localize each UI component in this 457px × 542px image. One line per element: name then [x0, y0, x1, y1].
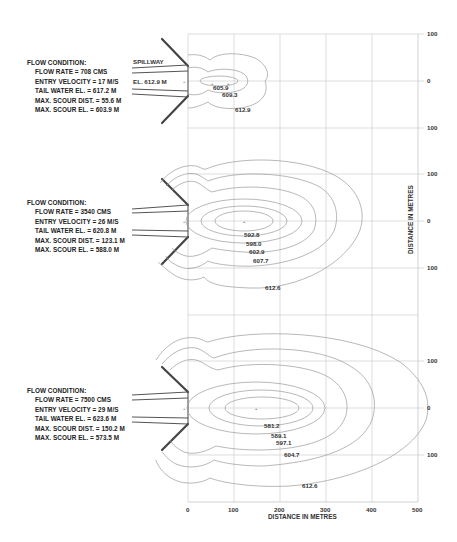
panel-1-contours: + + 605.9 609.3 612.9 SPILLWAY EL. 612.9…	[133, 54, 268, 113]
x-tick: 500	[412, 506, 423, 513]
contour-label: 602.9	[249, 248, 265, 255]
panel-3-spillway: +	[132, 367, 188, 450]
contour-label: 612.6	[265, 284, 281, 291]
scour-contour-figure: FLOW CONDITION: FLOW RATE = 708 CMS ENTR…	[0, 0, 457, 542]
x-tick: 400	[366, 506, 377, 513]
contour-label: 592.8	[244, 231, 260, 238]
x-axis-title: DISTANCE IN METRES	[268, 513, 337, 520]
svg-text:+: +	[243, 219, 246, 224]
x-axis: 0 100 200 300 400 500 DISTANCE IN METRES	[186, 506, 423, 520]
x-tick: 0	[186, 506, 190, 513]
svg-text:0: 0	[427, 404, 431, 411]
x-tick: 100	[228, 506, 239, 513]
contour-label: 609.3	[222, 91, 238, 98]
svg-text:+: +	[183, 406, 186, 411]
x-tick: 200	[274, 506, 285, 513]
spillway-elevation-label: EL. 612.9 M	[133, 78, 167, 85]
svg-text:100: 100	[427, 451, 438, 458]
contour-label: 589.1	[271, 432, 287, 439]
contour-label: 612.6	[302, 482, 318, 489]
svg-text:100: 100	[427, 124, 438, 131]
svg-text:0: 0	[427, 217, 431, 224]
contour-label: 581.2	[264, 422, 280, 429]
grid-lines	[188, 34, 424, 502]
panel-1-y-ticks: 100 0 100	[427, 30, 438, 131]
svg-text:100: 100	[427, 170, 438, 177]
svg-text:+: +	[255, 406, 258, 411]
contour-label: 604.7	[284, 451, 300, 458]
contour-label: 607.7	[253, 257, 269, 264]
y-axis-title: DISTANCE IN METRES	[407, 185, 414, 254]
contour-label: 605.9	[213, 84, 229, 91]
x-tick: 300	[320, 506, 331, 513]
spillway-wall-upper	[162, 39, 188, 66]
spillway-wall-lower	[162, 96, 188, 123]
svg-text:100: 100	[427, 264, 438, 271]
spillway-wall-upper	[162, 367, 188, 392]
panel-3-y-ticks: 100 0 100	[427, 357, 438, 458]
contour-label: 597.1	[276, 439, 292, 446]
panel-3-contours: + 581.2 589.1 597.1 604.7 612.6	[156, 334, 428, 489]
svg-text:+: +	[183, 79, 186, 84]
contour-label: 598.0	[246, 240, 262, 247]
spillway-label: SPILLWAY	[133, 58, 165, 65]
contour-plot-svg: + + + 605.9 609.3 612.9 SPILLWAY EL. 612…	[0, 0, 457, 542]
svg-text:100: 100	[427, 357, 438, 364]
spillway-wall-upper	[162, 179, 188, 205]
contour-label: 612.9	[235, 106, 251, 113]
svg-text:+: +	[183, 219, 186, 224]
svg-text:100: 100	[427, 30, 438, 37]
svg-text:0: 0	[427, 77, 431, 84]
panel-2-contours: + 592.8 598.0 602.9 607.7 612.6	[158, 160, 362, 291]
panel-2-spillway: +	[132, 179, 188, 264]
panel-2-y-ticks: 100 0 100 DISTANCE IN METRES	[407, 170, 438, 271]
